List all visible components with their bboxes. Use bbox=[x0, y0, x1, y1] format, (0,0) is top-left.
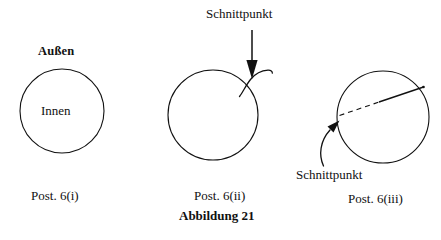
arrow-head-panel-ii bbox=[246, 60, 257, 79]
circle-panel-iii bbox=[337, 71, 429, 163]
label-innen: Innen bbox=[41, 104, 71, 117]
caption-panel-i: Post. 6(i) bbox=[31, 189, 79, 202]
arrow-shaft-panel-iii bbox=[321, 130, 330, 166]
chord-endpoint-marker-panel-iii bbox=[422, 86, 425, 89]
label-aussen: Außen bbox=[38, 45, 74, 58]
label-schnittpunkt-panel-iii: Schnittpunkt bbox=[296, 168, 362, 181]
chord-solid-panel-iii bbox=[379, 87, 424, 102]
caption-panel-ii: Post. 6(ii) bbox=[194, 189, 245, 202]
caption-panel-iii: Post. 6(iii) bbox=[348, 192, 403, 205]
chord-dashed-panel-iii bbox=[340, 102, 380, 116]
circle-panel-ii bbox=[168, 70, 258, 160]
figure-caption: Abbildung 21 bbox=[179, 209, 255, 222]
figure-abbildung-21: Außen Innen Schnittpunkt Schnittpunkt Po… bbox=[0, 0, 441, 240]
label-schnittpunkt-panel-ii: Schnittpunkt bbox=[206, 7, 272, 20]
